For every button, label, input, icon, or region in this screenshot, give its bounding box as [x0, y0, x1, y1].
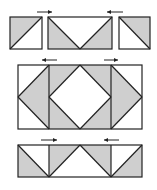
top-row [10, 10, 150, 49]
arrow-right-icon [53, 138, 57, 142]
arrow-left-icon [104, 138, 108, 142]
middle-row [18, 58, 142, 129]
shaded-triangle [111, 65, 142, 129]
arrow-left-icon [42, 58, 46, 62]
flying-geese-pair [48, 17, 112, 49]
arrow-right-icon [48, 10, 52, 14]
arrow-left-icon [107, 10, 111, 14]
bottom-row [18, 138, 142, 177]
hst-right [119, 17, 150, 49]
hst-left [10, 17, 42, 49]
quilt-block-diagram [0, 0, 157, 190]
arrow-right-icon [114, 58, 118, 62]
shaded-triangle [18, 65, 49, 129]
